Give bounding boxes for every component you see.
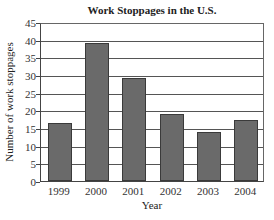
y-tick-label: 10: [25, 141, 36, 152]
y-tick-label: 25: [25, 88, 36, 99]
bar-2004: [234, 120, 258, 181]
bar-1999: [48, 123, 72, 181]
bar-2003: [197, 132, 221, 181]
gridline: [41, 58, 263, 59]
y-tick-label: 30: [25, 71, 36, 82]
y-tick-label: 20: [25, 106, 36, 117]
x-tick-label: 1999: [41, 185, 77, 197]
gridline: [41, 164, 263, 165]
x-axis-label: Year: [40, 199, 264, 211]
y-tick-label: 40: [25, 35, 36, 46]
x-tick-label: 2001: [115, 185, 151, 197]
gridline: [41, 94, 263, 95]
gridline: [41, 129, 263, 130]
bar-2001: [122, 78, 146, 181]
gridline: [41, 147, 263, 148]
bar-2000: [85, 43, 109, 182]
y-tick-mark: [36, 182, 40, 183]
gridline: [41, 111, 263, 112]
x-tick-label: 2004: [227, 185, 263, 197]
y-axis-label: Number of work stoppages: [3, 37, 15, 167]
x-tick-label: 2003: [190, 185, 226, 197]
plot-area: [40, 23, 264, 182]
bar-2002: [160, 114, 184, 181]
gridline: [41, 76, 263, 77]
y-tick-label: 45: [25, 18, 36, 29]
y-tick-label: 35: [25, 53, 36, 64]
y-tick-label: 15: [25, 124, 36, 135]
gridline: [41, 41, 263, 42]
chart-title: Work Stoppages in the U.S.: [40, 4, 264, 16]
x-tick-label: 2002: [153, 185, 189, 197]
x-tick-label: 2000: [78, 185, 114, 197]
